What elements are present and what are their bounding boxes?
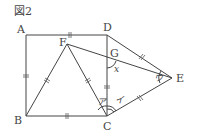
figure-title: 図2 [14,5,32,18]
angle-i-label: イ [115,95,125,105]
angle-u-label: ウ [154,73,164,83]
angle-a-label: ア [97,97,107,107]
label-g: G [110,47,119,60]
label-d: D [103,21,112,34]
angle-x-label: x [114,64,119,74]
label-c: C [103,120,111,133]
label-e: E [176,72,184,85]
label-f: F [59,36,67,49]
label-a: A [16,23,26,36]
segment-fb [26,44,67,116]
label-b: B [14,114,22,127]
geometry-figure: 図2 A D B C F G E x ア イ ウ [0,0,198,139]
